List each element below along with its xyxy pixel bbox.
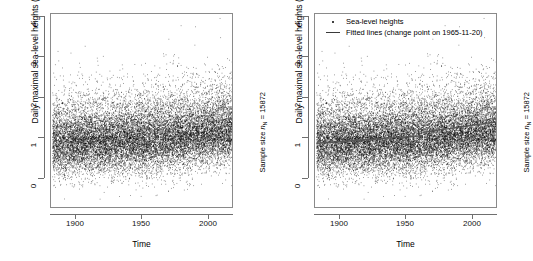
y-tick-mark: [302, 137, 308, 138]
x-tick-label: 2000: [188, 220, 228, 228]
y-tick-label: 4: [0, 12, 36, 30]
sample-size-value: = 15872: [521, 92, 530, 121]
y-tick-mark: [38, 137, 44, 138]
legend-item-points: Sea-level heights: [322, 16, 483, 27]
x-tick-label: 1900: [319, 220, 359, 228]
legend-label-points: Sea-level heights: [344, 16, 404, 27]
panel-left: Daily maximal sea-level heights (in m ab…: [0, 0, 264, 261]
y-tick-mark: [302, 97, 308, 98]
y-tick-mark: [302, 16, 308, 17]
y-tick-mark: [38, 178, 44, 179]
y-tick-mark: [38, 97, 44, 98]
scatter-plot-left: [51, 14, 232, 207]
legend: Sea-level heights Fitted lines (change p…: [322, 16, 483, 38]
y-tick-label: 2: [264, 93, 300, 111]
sample-size-symbol: n: [521, 125, 530, 129]
y-tick-label: 3: [0, 52, 36, 70]
y-axis-line: [44, 16, 45, 178]
x-tick-label: 1950: [385, 220, 425, 228]
y-tick-label: 2: [0, 93, 36, 111]
legend-label-fitted-lines: Fitted lines (change point on 1965-11-20…: [344, 27, 483, 38]
x-axis-title: Time: [314, 240, 497, 249]
x-axis-title: Time: [50, 240, 233, 249]
y-tick-label: 1: [264, 133, 300, 151]
y-tick-label: 4: [264, 12, 300, 30]
line-marker-icon: [322, 32, 344, 33]
plot-area-right: [314, 13, 497, 208]
y-tick-label: 0: [264, 174, 300, 192]
scatter-plot-right: [315, 14, 496, 207]
point-marker-icon: [322, 21, 344, 23]
y-tick-label: 3: [264, 52, 300, 70]
sample-size-note: Sample size nN = 15872: [522, 92, 533, 173]
y-tick-label: 1: [0, 133, 36, 151]
y-tick-mark: [302, 56, 308, 57]
y-tick-mark: [38, 56, 44, 57]
sample-size-subscript: N: [526, 121, 532, 125]
y-tick-mark: [302, 178, 308, 179]
plot-area-left: [50, 13, 233, 208]
y-tick-mark: [38, 16, 44, 17]
x-tick-label: 2000: [452, 220, 492, 228]
panel-right: Daily maximal sea-level heights (in m ab…: [264, 0, 528, 261]
x-tick-label: 1900: [55, 220, 95, 228]
legend-item-fitted-lines: Fitted lines (change point on 1965-11-20…: [322, 27, 483, 38]
y-axis-line: [308, 16, 309, 178]
x-tick-label: 1950: [121, 220, 161, 228]
y-tick-label: 0: [0, 174, 36, 192]
